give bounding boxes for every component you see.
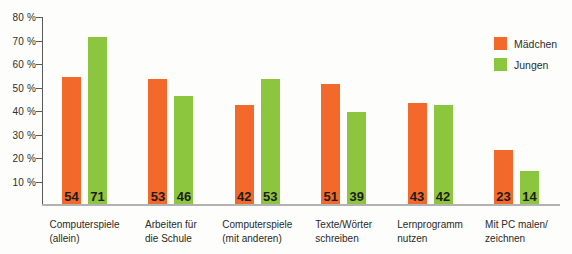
bar-value-label: 23 xyxy=(491,189,516,204)
category-label-line: Arbeiten für xyxy=(145,218,197,232)
y-tick xyxy=(36,111,42,112)
y-axis xyxy=(42,17,43,205)
bar-value-label: 53 xyxy=(145,189,170,204)
y-tick xyxy=(36,41,42,42)
y-tick xyxy=(36,158,42,159)
category-label: Computerspiele(allein) xyxy=(49,218,119,245)
y-tick-label: 80 % xyxy=(6,12,36,23)
bar-value-label: 14 xyxy=(517,189,542,204)
y-tick xyxy=(36,135,42,136)
bar-value-label: 54 xyxy=(59,189,84,204)
bar-value-label: 43 xyxy=(405,189,430,204)
x-axis xyxy=(42,204,560,206)
y-tick-label: 70 % xyxy=(6,36,36,47)
legend-label: Jungen xyxy=(514,59,548,71)
category-label-line: schreiben xyxy=(315,232,372,246)
y-tick xyxy=(36,88,42,89)
bar-value-label: 42 xyxy=(431,189,456,204)
bar-mädchen xyxy=(62,77,81,204)
y-tick xyxy=(36,64,42,65)
legend-swatch-icon xyxy=(494,37,507,50)
y-tick-label: 30 % xyxy=(6,130,36,141)
bar-value-label: 51 xyxy=(318,189,343,204)
category-label-line: die Schule xyxy=(145,232,197,246)
category-label: Lernprogrammnutzen xyxy=(397,218,463,245)
y-tick xyxy=(36,17,42,18)
category-label-line: Lernprogramm xyxy=(397,218,463,232)
legend-row: Mädchen xyxy=(494,37,557,50)
y-tick-label: 40 % xyxy=(6,106,36,117)
chart-legend: MädchenJungen xyxy=(494,37,557,79)
category-label-line: nutzen xyxy=(397,232,463,246)
bar-mädchen xyxy=(148,79,167,204)
y-tick-label: 20 % xyxy=(6,153,36,164)
category-label-line: (allein) xyxy=(49,232,119,246)
bar-value-label: 39 xyxy=(344,189,369,204)
bar-jungen xyxy=(174,96,193,204)
category-label-line: (mit anderen) xyxy=(222,232,292,246)
bar-value-label: 42 xyxy=(232,189,257,204)
category-label-line: Texte/Wörter xyxy=(315,218,372,232)
bar-value-label: 53 xyxy=(258,189,283,204)
category-label-line: Computerspiele xyxy=(49,218,119,232)
bar-value-label: 71 xyxy=(85,189,110,204)
y-tick-label: 10 % xyxy=(6,177,36,188)
bar-chart: MädchenJungen 10 %20 %30 %40 %50 %60 %70… xyxy=(0,0,572,254)
legend-label: Mädchen xyxy=(514,38,557,50)
y-tick-label: 50 % xyxy=(6,83,36,94)
category-label: Arbeiten fürdie Schule xyxy=(145,218,197,245)
y-tick-label: 60 % xyxy=(6,59,36,70)
category-label-line: Computerspiele xyxy=(222,218,292,232)
bar-jungen xyxy=(88,37,107,204)
bar-value-label: 46 xyxy=(171,189,196,204)
category-label-line: Mit PC malen/ xyxy=(485,218,548,232)
legend-row: Jungen xyxy=(494,58,557,71)
y-tick xyxy=(36,182,42,183)
category-label: Computerspiele(mit anderen) xyxy=(222,218,292,245)
category-label: Texte/Wörterschreiben xyxy=(315,218,372,245)
category-label: Mit PC malen/zeichnen xyxy=(485,218,548,245)
bar-jungen xyxy=(261,79,280,204)
legend-swatch-icon xyxy=(494,58,507,71)
bar-mädchen xyxy=(321,84,340,204)
category-label-line: zeichnen xyxy=(485,232,548,246)
